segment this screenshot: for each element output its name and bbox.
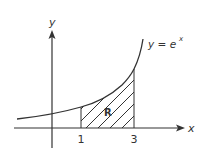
curve-label: y = e x [147,35,184,50]
x-axis-label: x [187,122,195,135]
integral-region-diagram: y x 1 3 R y = e x [0,0,205,155]
svg-text:y = e: y = e [147,38,176,50]
svg-text:x: x [178,35,184,43]
x-tick-label-3: 3 [131,133,138,146]
y-axis-label: y [48,16,56,29]
shaded-region-r [62,62,184,128]
curve-exp [17,39,143,119]
x-tick-label-1: 1 [78,133,85,146]
region-label: R [104,107,112,118]
